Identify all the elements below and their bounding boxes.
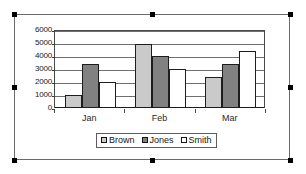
bar[interactable] [65,95,82,108]
x-axis-tick-mark [54,109,55,113]
resize-handle-bottom-right[interactable] [288,158,293,163]
y-axis-tick-label: 0 [16,104,52,112]
bar[interactable] [99,82,116,108]
bar[interactable] [239,51,256,108]
resize-handle-top-center[interactable] [150,12,155,17]
x-axis-category-labels: JanFebMar [54,113,265,125]
x-axis-tick-mark [124,109,125,113]
bar[interactable] [169,69,186,108]
bar[interactable] [205,77,222,108]
y-axis-tick-label: 3000 [16,65,52,73]
resize-handle-top-left[interactable] [12,12,17,17]
resize-handle-top-right[interactable] [288,12,293,17]
bar[interactable] [135,44,152,108]
legend-swatch-icon [142,137,148,143]
y-axis: 0100020003000400050006000 [14,30,52,108]
legend-item[interactable]: Brown [101,135,135,145]
legend-label: Brown [109,135,135,145]
bar-group [55,31,125,108]
x-axis-tick-mark [265,109,266,113]
y-axis-tick-label: 1000 [16,91,52,99]
legend-item[interactable]: Smith [181,135,212,145]
resize-handle-bottom-center[interactable] [150,158,155,163]
legend-label: Smith [189,135,212,145]
resize-handle-bottom-left[interactable] [12,158,17,163]
y-axis-tick-label: 5000 [16,39,52,47]
chart-legend[interactable]: BrownJonesSmith [96,133,217,148]
resize-handle-middle-left[interactable] [12,85,17,90]
resize-handle-middle-right[interactable] [288,85,293,90]
bar-group [196,31,266,108]
x-axis-tick-label: Mar [208,113,252,123]
x-axis-tick-mark [195,109,196,113]
x-axis-tick-label: Jan [67,113,111,123]
x-axis-tick-label: Feb [138,113,182,123]
y-axis-tick-label: 2000 [16,78,52,86]
bar[interactable] [222,64,239,108]
y-axis-tick-label: 6000 [16,26,52,34]
bar[interactable] [152,56,169,108]
y-axis-tick-label: 4000 [16,52,52,60]
bar-group [125,31,195,108]
legend-swatch-icon [181,137,187,143]
bar[interactable] [82,64,99,108]
legend-item[interactable]: Jones [142,135,174,145]
legend-swatch-icon [101,137,107,143]
legend-label: Jones [150,135,174,145]
bar-chart[interactable]: 0100020003000400050006000 JanFebMar Brow… [14,14,290,160]
plot-area [54,30,265,108]
